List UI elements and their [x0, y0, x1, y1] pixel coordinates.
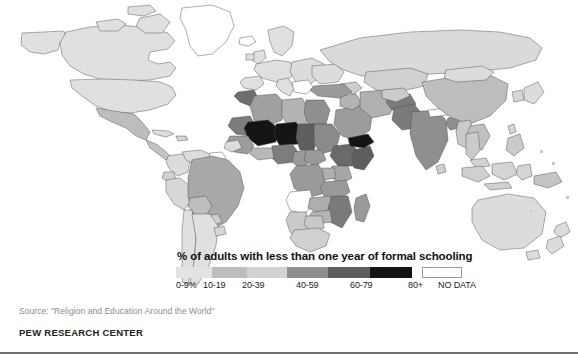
legend-swatch-20-39	[247, 267, 287, 278]
legend-label-60-79: 60-79	[350, 280, 373, 290]
country-egypt	[304, 100, 330, 124]
country-sri-lanka	[436, 164, 446, 174]
source-note: Source: "Religion and Education Around t…	[19, 306, 214, 316]
country-uganda	[322, 168, 336, 180]
legend-label-80plus: 80+	[408, 280, 423, 290]
organization-name: PEW RESEARCH CENTER	[19, 327, 143, 338]
country-tasmania	[526, 250, 540, 260]
legend-swatch-10-19	[212, 267, 246, 278]
country-uruguay	[214, 226, 226, 236]
legend-swatch-no-data	[422, 267, 462, 278]
legend-label-10-19: 10-19	[203, 280, 226, 290]
island-hispaniola	[176, 136, 188, 141]
bottom-divider	[0, 352, 578, 354]
legend-label-40-59: 40-59	[296, 280, 319, 290]
legend-title: % of adults with less than one year of f…	[177, 249, 476, 264]
legend-swatch-80plus	[370, 267, 412, 278]
legend-label-20-39: 20-39	[242, 280, 265, 290]
region-korea	[512, 90, 524, 102]
pew-choropleth-figure: % of adults with less than one year of f…	[0, 0, 578, 359]
legend-label-0-9: 0-9%	[176, 280, 197, 290]
legend-label-no-data: NO DATA	[438, 280, 476, 290]
legend-swatch-40-59	[287, 267, 329, 278]
legend-labels: 0-9% 10-19 20-39 40-59 60-79 80+ NO DATA	[176, 280, 476, 293]
map-legend: % of adults with less than one year of f…	[176, 249, 476, 293]
legend-swatch-0-9	[176, 267, 212, 278]
legend-swatch-bar	[176, 267, 462, 278]
legend-swatch-60-79	[328, 267, 370, 278]
country-ireland	[246, 54, 254, 60]
